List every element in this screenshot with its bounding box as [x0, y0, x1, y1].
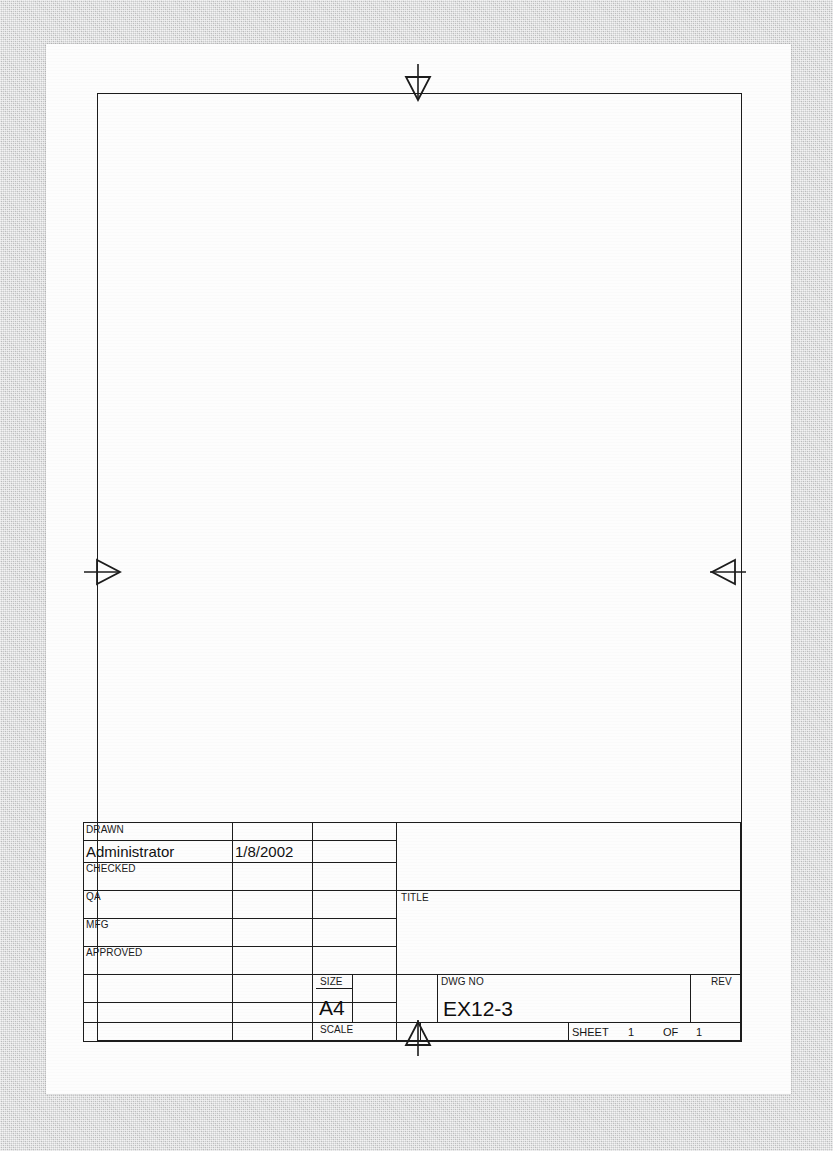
sheet-number[interactable]: 1	[628, 1027, 634, 1038]
sheet-total[interactable]: 1	[696, 1027, 702, 1038]
tb-rule	[316, 1022, 740, 1023]
tb-rule	[83, 1002, 396, 1003]
title-field-label: TITLE	[401, 893, 429, 903]
size-field-label: SIZE	[320, 977, 343, 987]
tb-rule	[568, 1022, 569, 1042]
tb-rule	[420, 1022, 421, 1042]
tb-rule	[83, 918, 396, 919]
tb-rule	[83, 822, 84, 1042]
approval-label-mfg: MFG	[86, 920, 109, 930]
tb-rule	[352, 974, 353, 1022]
center-mark-right-arrow-left-icon	[702, 552, 746, 592]
approval-name-drawn[interactable]: Administrator	[86, 844, 174, 859]
tb-rule	[740, 822, 741, 1042]
title-block: DRAWN Administrator 1/8/2002 CHECKED QA …	[83, 822, 742, 1042]
scale-label: SCALE	[320, 1025, 353, 1035]
tb-rule	[437, 974, 438, 1022]
tb-rule	[316, 974, 740, 975]
sheet-of-label: OF	[663, 1027, 678, 1038]
rev-label: REV	[711, 977, 732, 987]
tb-rule	[312, 822, 313, 1042]
dwg-no-value[interactable]: EX12-3	[443, 998, 513, 1019]
center-mark-top-arrow-down-icon	[398, 64, 438, 104]
dwg-no-label: DWG NO	[441, 977, 484, 987]
tb-rule	[83, 1041, 742, 1042]
center-mark-left-arrow-right-icon	[84, 552, 124, 592]
tb-rule	[83, 840, 396, 841]
approval-label-drawn: DRAWN	[86, 825, 124, 835]
approval-label-qa: QA	[86, 892, 101, 902]
tb-rule	[396, 822, 397, 1042]
tb-rule	[316, 890, 740, 891]
sheet-label: SHEET	[572, 1027, 609, 1038]
tb-rule	[232, 822, 233, 1042]
approval-label-checked: CHECKED	[86, 864, 136, 874]
tb-rule	[83, 822, 742, 823]
tb-rule	[690, 974, 691, 1022]
approval-date-drawn[interactable]: 1/8/2002	[235, 844, 293, 859]
approval-label-approved: APPROVED	[86, 948, 142, 958]
size-field-value[interactable]: A4	[319, 997, 345, 1018]
tb-rule	[316, 988, 352, 989]
